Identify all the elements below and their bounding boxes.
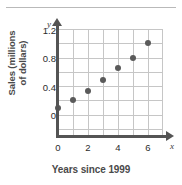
- y-axis-title-line-1: Sales (millions: [6, 30, 17, 95]
- data-point: [130, 55, 136, 61]
- gridline-vertical: [73, 29, 74, 136]
- x-tick-label: 2: [78, 142, 98, 153]
- data-point: [115, 65, 121, 71]
- y-axis-letter: y: [47, 19, 51, 29]
- gridline-vertical: [162, 29, 163, 136]
- data-point: [145, 40, 151, 46]
- y-axis-tick-labels: 1.2 0.8 0.4 0: [26, 0, 56, 185]
- x-tick-label: 0: [48, 142, 68, 153]
- chart-figure: Sales (millions of dollars) 1.2 0.8 0.4 …: [0, 0, 182, 185]
- y-tick-label: 1.2: [30, 25, 56, 36]
- data-point: [70, 97, 76, 103]
- y-tick-label: 0.4: [30, 82, 56, 93]
- x-axis-title: Years since 1999: [0, 164, 182, 175]
- x-tick-label: 4: [108, 142, 128, 153]
- x-axis-letter: x: [170, 141, 174, 151]
- y-tick-label: 0.8: [30, 53, 56, 64]
- gridline-vertical: [118, 29, 119, 136]
- gridline-vertical: [88, 29, 89, 136]
- gridline-vertical: [133, 29, 134, 136]
- x-axis-arrow-icon: [166, 131, 174, 141]
- plot-area: [58, 29, 163, 136]
- x-axis-line: [56, 135, 168, 138]
- y-tick-label: 0: [30, 110, 56, 121]
- data-point: [100, 77, 106, 83]
- data-point: [85, 88, 91, 94]
- x-tick-label: 6: [138, 142, 158, 153]
- y-axis-line: [56, 24, 59, 136]
- y-axis-arrow-icon: [52, 18, 62, 26]
